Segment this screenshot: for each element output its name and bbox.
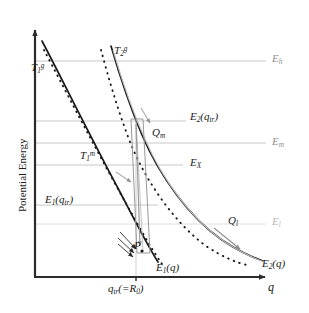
label-e2qtr: E2(qtr) — [190, 111, 218, 124]
label-ex: EX — [190, 157, 201, 170]
label-t1m: T1m — [80, 150, 95, 163]
label-e1q: E1(q) — [156, 262, 179, 275]
label-qm: Qm — [152, 127, 165, 140]
label-em: Em — [272, 136, 284, 149]
x-axis-label: q — [268, 281, 274, 293]
label-p: P — [134, 240, 141, 251]
x-tick-label-qtr: qtr(=R0) — [108, 283, 143, 296]
potential-energy-diagram: Potential Energy q qtr(=R0) T1g T2g T1m … — [0, 0, 309, 313]
label-t2g: T2g — [114, 45, 127, 58]
label-el: El — [272, 216, 281, 229]
label-t1g: T1g — [31, 62, 44, 75]
label-e2q: E2(q) — [262, 258, 285, 271]
ql-arrow — [214, 228, 240, 249]
curve-e2-solid — [111, 46, 263, 261]
curve-e1-dotted — [44, 50, 162, 264]
label-ql: Ql — [228, 215, 238, 228]
label-e1qtr: E1(qtr) — [45, 194, 73, 207]
ex-arrow — [116, 172, 131, 182]
label-eh: Eh — [272, 53, 282, 66]
y-axis-label: Potential Energy — [16, 139, 28, 212]
